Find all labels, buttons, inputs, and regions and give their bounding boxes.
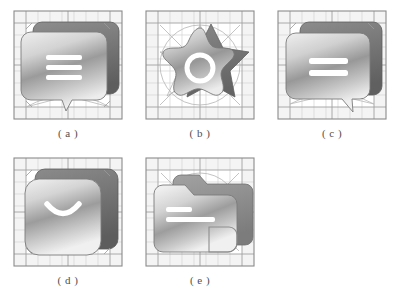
panel-a-artwork bbox=[9, 6, 127, 124]
figure-empty-cell bbox=[272, 153, 392, 287]
figure-panel-d: ( d ) bbox=[8, 153, 128, 287]
panel-e-artwork bbox=[141, 153, 259, 271]
figure-row-bottom: ( d ) bbox=[8, 153, 404, 287]
figure-row-top: ( a ) bbox=[8, 6, 404, 140]
panel-e-caption: ( e ) bbox=[190, 273, 210, 287]
panel-d-artwork bbox=[9, 153, 127, 271]
panel-c-caption: ( c ) bbox=[322, 126, 342, 140]
figure-panel-a: ( a ) bbox=[8, 6, 128, 140]
panel-c-artwork bbox=[273, 6, 391, 124]
panel-b-artwork bbox=[141, 6, 259, 124]
panel-b-caption: ( b ) bbox=[190, 126, 211, 140]
figure-panel-e: ( e ) bbox=[140, 153, 260, 287]
figure-panel-b: ( b ) bbox=[140, 6, 260, 140]
panel-a-caption: ( a ) bbox=[58, 126, 78, 140]
figure-panel-c: ( c ) bbox=[272, 6, 392, 140]
icon-design-grid-figure: ( a ) bbox=[0, 0, 414, 303]
panel-d-caption: ( d ) bbox=[58, 273, 79, 287]
